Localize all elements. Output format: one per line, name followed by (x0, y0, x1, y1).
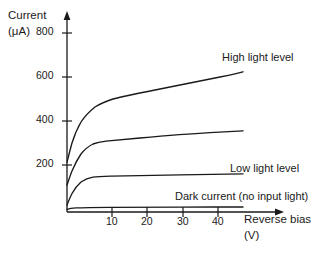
x-tick-label-20: 20 (141, 216, 153, 228)
y-axis (64, 11, 71, 212)
x-tick-label-10: 10 (106, 216, 118, 228)
x-axis-units: (V) (244, 229, 259, 242)
curve-label-high-light-level: High light level (222, 51, 294, 63)
x-tick-label-40: 40 (212, 216, 224, 228)
curve-label-low-light-level: Low light level (230, 162, 299, 174)
y-tick-label-600: 600 (36, 70, 54, 82)
curve-label-dark-current: Dark current (no input light) (175, 190, 308, 202)
y-axis-units: (μA) (8, 25, 30, 38)
y-tick-label-800: 800 (36, 26, 54, 38)
curve-dark-current (67, 207, 243, 209)
y-tick-label-400: 400 (36, 114, 54, 126)
y-axis-title: Current (8, 9, 46, 22)
x-axis-title: Reverse bias (244, 213, 311, 226)
y-tick-label-200: 200 (36, 158, 54, 170)
x-tick-label-30: 30 (177, 216, 189, 228)
curve-high-light-level-real (67, 72, 243, 162)
photodiode-characteristic-chart: Current (μA) Reverse bias (V) 800 600 40… (0, 0, 335, 253)
